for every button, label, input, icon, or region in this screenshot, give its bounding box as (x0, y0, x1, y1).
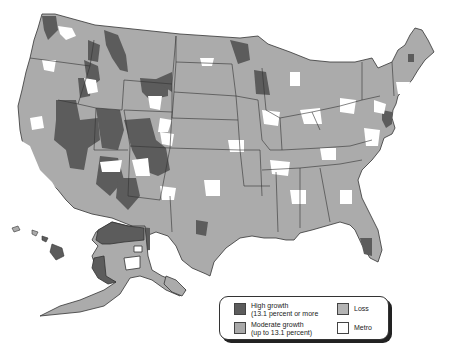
metro-swatch (337, 322, 349, 334)
legend-label-moderate-growth: Moderate growth (251, 321, 312, 329)
legend-item-moderate-growth: Moderate growth (up to 13.1 percent) (234, 321, 312, 337)
legend-label-loss: Loss (354, 305, 369, 313)
legend-label-metro: Metro (354, 324, 372, 332)
legend-label-high-growth: High growth (251, 302, 318, 310)
legend-item-high-growth: High growth (13.1 percent or more (234, 302, 318, 318)
loss-swatch (337, 303, 349, 315)
hawaii (12, 226, 64, 260)
alaska (40, 222, 186, 316)
legend-item-metro: Metro (337, 321, 372, 334)
moderate-growth-swatch (234, 322, 246, 334)
legend-item-loss: Loss (337, 302, 369, 315)
map-legend: High growth (13.1 percent or more Modera… (219, 296, 389, 340)
legend-sublabel-high-growth: (13.1 percent or more (251, 310, 318, 318)
high-growth-swatch (234, 303, 246, 315)
legend-sublabel-moderate-growth: (up to 13.1 percent) (251, 329, 312, 337)
